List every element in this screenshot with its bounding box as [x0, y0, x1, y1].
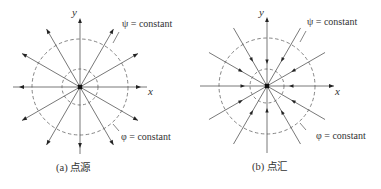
streamline-ray	[80, 87, 114, 145]
streamline-ray	[234, 28, 268, 86]
streamline-ray	[80, 54, 138, 88]
streamline-ray	[209, 53, 267, 87]
arrow-head-icon	[19, 85, 24, 89]
streamline-ray	[22, 54, 80, 88]
streamline-ray	[47, 29, 81, 87]
panel-point-sink	[200, 17, 334, 153]
arrow-head-icon	[78, 18, 82, 23]
panel-a-potential-label: φ = constant	[121, 132, 171, 142]
streamline-ray	[267, 86, 325, 120]
arrow-head-icon	[291, 100, 296, 104]
panel-a-caption: (a) 点源	[56, 163, 90, 174]
panel-a-streamline-label: ψ = constant	[122, 19, 172, 29]
streamline-ray	[47, 87, 81, 145]
equipotential-leader-line	[300, 123, 306, 130]
streamline-leader-line	[300, 31, 306, 42]
streamline-ray	[234, 86, 268, 144]
arrow-head-icon	[281, 57, 285, 62]
arrow-head-icon	[265, 60, 268, 65]
equipotential-leader-line	[113, 124, 119, 131]
arrow-head-icon	[22, 54, 27, 58]
sink-point	[265, 84, 269, 88]
arrow-head-icon	[289, 84, 294, 87]
arrow-head-icon	[22, 116, 27, 120]
panel-b-caption: (b) 点汇	[252, 162, 287, 173]
arrow-head-icon	[241, 84, 246, 87]
streamline-ray	[267, 53, 325, 87]
streamline-ray	[80, 87, 138, 121]
arrow-head-icon	[47, 29, 51, 34]
arrow-head-icon	[265, 17, 269, 22]
arrow-head-icon	[133, 54, 138, 58]
streamline-ray	[209, 86, 267, 120]
streamline-ray	[80, 29, 114, 87]
source-point	[78, 85, 82, 89]
panel-b-x-axis-label: x	[335, 86, 340, 97]
panel-a-x-axis-label: x	[148, 86, 153, 97]
panel-b-potential-label: φ = constant	[316, 131, 366, 141]
streamline-leader-line	[113, 32, 119, 43]
diagram-canvas	[0, 0, 381, 189]
arrow-head-icon	[249, 110, 253, 115]
streamline-ray	[22, 87, 80, 121]
streamline-ray	[267, 28, 301, 86]
arrow-head-icon	[291, 68, 296, 72]
arrow-head-icon	[136, 85, 141, 89]
arrow-head-icon	[47, 140, 51, 145]
arrow-head-icon	[238, 68, 243, 72]
panel-a-y-axis-label: y	[72, 7, 77, 18]
panel-b-streamline-label: ψ = constant	[307, 17, 357, 27]
arrow-head-icon	[78, 143, 82, 148]
arrow-head-icon	[109, 29, 113, 34]
arrow-head-icon	[238, 100, 243, 104]
arrow-head-icon	[109, 140, 113, 145]
arrow-head-icon	[265, 108, 268, 113]
streamline-ray	[267, 86, 301, 144]
arrow-head-icon	[281, 110, 285, 115]
arrow-head-icon	[329, 84, 334, 88]
arrow-head-icon	[133, 116, 138, 120]
arrow-head-icon	[249, 57, 253, 62]
panel-b-y-axis-label: y	[259, 7, 264, 18]
